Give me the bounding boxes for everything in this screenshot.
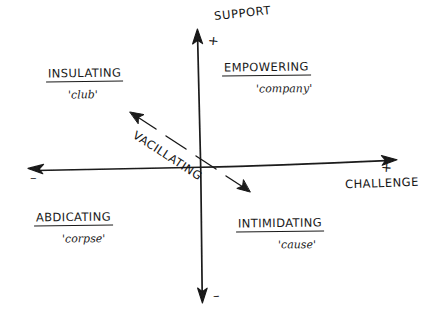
support-negative-sign: – <box>212 288 220 303</box>
challenge-axis-label: CHALLENGE <box>345 175 419 192</box>
quadrant-empowering-title: EMPOWERING <box>222 59 311 76</box>
quadrant-empowering: EMPOWERING 'company' <box>222 56 372 95</box>
support-axis-line <box>198 33 203 296</box>
challenge-axis-line <box>36 160 392 170</box>
vacillating-arrowhead-upper-left <box>130 112 144 123</box>
challenge-negative-sign: – <box>30 170 37 185</box>
quadrant-abdicating-subtitle: 'corpse' <box>62 232 184 246</box>
quadrant-insulating-title: INSULATING <box>46 66 123 83</box>
quadrant-abdicating: ABDICATING 'corpse' <box>34 206 184 245</box>
quadrant-insulating: INSULATING 'club' <box>46 62 196 101</box>
vacillating-arrowhead-lower-right <box>237 180 250 192</box>
challenge-positive-sign: + <box>380 160 392 176</box>
quadrant-abdicating-title: ABDICATING <box>34 210 113 227</box>
quadrant-intimidating-title: INTIMIDATING <box>236 215 324 232</box>
quadrant-intimidating: INTIMIDATING 'cause' <box>236 212 386 251</box>
quadrant-intimidating-subtitle: 'cause' <box>278 238 386 252</box>
quadrant-insulating-subtitle: 'club' <box>68 88 196 102</box>
quadrant-empowering-subtitle: 'company' <box>256 82 372 96</box>
support-positive-sign: + <box>207 32 219 48</box>
